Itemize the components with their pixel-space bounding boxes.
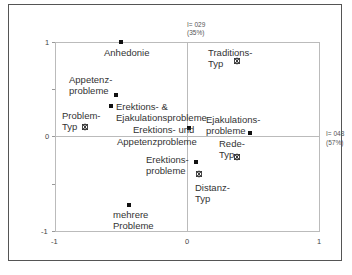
label-ejak-1: Ejakulations- (206, 114, 260, 125)
label-erej-1: Erektions- & (116, 101, 168, 112)
marker-appetenzprobleme (114, 93, 118, 97)
marker-mehrere-probleme (127, 203, 131, 207)
label-ejak-2: probleme (206, 125, 246, 136)
label-erap-1: Erektions- und (133, 124, 194, 135)
label-dist-1: Distanz- (195, 182, 230, 193)
label-erek-2: probleme (146, 165, 186, 176)
x-tick-neg1: -1 (51, 237, 58, 246)
x-tick-0: 0 (185, 237, 189, 246)
label-mehr-2: Probleme (113, 220, 154, 231)
label-appetenz-1: Appetenz- (69, 74, 112, 85)
horizontal-axis-percent: (57%) (326, 139, 343, 147)
label-erap-2: Appetenzprobleme (117, 136, 197, 147)
label-anhedonie: Anhedonie (104, 47, 149, 58)
marker-erektionsprobleme (194, 160, 198, 164)
label-problemtyp-1: Problem- (62, 110, 101, 121)
label-trad-1: Traditions- (208, 47, 253, 58)
label-erek-1: Erektions- (146, 154, 189, 165)
marker-traditions-typ (234, 58, 240, 65)
y-tick-1: 1 (45, 38, 49, 47)
x-tick-1: 1 (317, 237, 321, 246)
y-tick-0: 0 (45, 132, 49, 141)
marker-erektions-ejakulationsprobleme (109, 104, 113, 108)
label-dist-2: Typ (195, 193, 210, 204)
chart-canvas: 1 0 -1 -1 0 1 I= 029 (35%) I= 048 (57%) … (0, 0, 352, 275)
label-rede-2: Typ (219, 149, 234, 160)
y-tick-neg1: -1 (41, 227, 48, 236)
label-erej-2: Ejakulationsprobleme (116, 112, 207, 123)
vertical-axis-inertia: I= 029 (187, 21, 206, 28)
label-trad-2: Typ (208, 58, 223, 69)
marker-anhedonie (119, 40, 123, 44)
marker-problem-typ (82, 124, 88, 131)
label-mehr-1: mehrere (113, 209, 148, 220)
vertical-axis-percent: (35%) (187, 29, 204, 37)
label-problemtyp-2: Typ (62, 121, 77, 132)
horizontal-axis-inertia: I= 048 (326, 130, 345, 137)
marker-ejakulationsprobleme (248, 131, 252, 135)
marker-rede-typ (234, 154, 240, 161)
marker-distanz-typ (196, 171, 202, 178)
label-appetenz-2: probleme (69, 85, 109, 96)
label-rede-1: Rede- (219, 138, 245, 149)
